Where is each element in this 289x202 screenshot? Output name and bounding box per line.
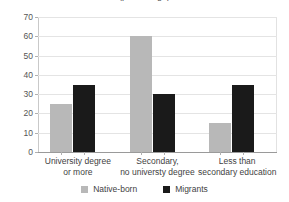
y-axis-tick-label: 10 bbox=[0, 129, 33, 137]
x-axis-label-line: no universty degree bbox=[118, 167, 198, 178]
bar-group bbox=[197, 17, 277, 152]
x-axis-label-line: or more bbox=[38, 167, 118, 178]
x-axis-category-label: University degreeor more bbox=[38, 156, 118, 177]
y-axis-tick-label: 30 bbox=[0, 90, 33, 98]
y-axis-tick-label: 20 bbox=[0, 109, 33, 117]
x-axis-tick-mark bbox=[243, 152, 244, 155]
y-axis-tick-label: 40 bbox=[0, 71, 33, 79]
x-axis-label-line: Secondary, bbox=[118, 156, 198, 167]
legend-label: Migrants bbox=[175, 184, 208, 194]
bar-group bbox=[118, 17, 198, 152]
bar-group bbox=[38, 17, 118, 152]
x-axis-category-label: Less thansecondary education bbox=[197, 156, 277, 177]
bar-migrants bbox=[232, 85, 254, 153]
bar-chart: (percentage) 706050403020100 University … bbox=[0, 0, 289, 202]
x-axis-tick-mark bbox=[84, 152, 85, 155]
bar-series-container bbox=[38, 17, 277, 152]
legend-item[interactable]: Migrants bbox=[163, 184, 208, 194]
x-axis-label-line: University degree bbox=[38, 156, 118, 167]
x-axis-label-line: secondary education bbox=[197, 167, 277, 178]
legend-swatch-icon bbox=[81, 186, 88, 193]
bar-native-born bbox=[130, 36, 152, 152]
x-axis-tick-mark bbox=[61, 152, 62, 155]
bar-migrants bbox=[73, 85, 95, 153]
bar-native-born bbox=[50, 104, 72, 152]
x-axis-tick-mark bbox=[220, 152, 221, 155]
y-axis-tick-label: 50 bbox=[0, 52, 33, 60]
legend-label: Native-born bbox=[93, 184, 137, 194]
x-axis-category-label: Secondary,no universty degree bbox=[118, 156, 198, 177]
y-axis-tick-label: 0 bbox=[0, 148, 33, 156]
x-axis-label-line: Less than bbox=[197, 156, 277, 167]
x-axis-tick-mark bbox=[141, 152, 142, 155]
y-axis-tick-label: 70 bbox=[0, 13, 33, 21]
x-axis-labels: University degreeor moreSecondary,no uni… bbox=[38, 156, 277, 182]
bar-migrants bbox=[153, 94, 175, 152]
legend-item[interactable]: Native-born bbox=[81, 184, 137, 194]
chart-legend: Native-bornMigrants bbox=[0, 184, 289, 194]
chart-title: (percentage) bbox=[0, 0, 289, 2]
x-axis-tick-mark bbox=[164, 152, 165, 155]
y-axis-tick-label: 60 bbox=[0, 32, 33, 40]
x-axis-baseline bbox=[38, 152, 277, 153]
legend-swatch-icon bbox=[163, 186, 170, 193]
bar-native-born bbox=[209, 123, 231, 152]
